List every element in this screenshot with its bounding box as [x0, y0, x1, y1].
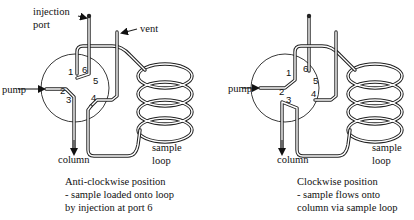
port-6: 6 — [82, 64, 87, 75]
port-6: 6 — [303, 63, 308, 74]
caption-line-3: column via sample loop — [297, 202, 398, 213]
caption-line-2: - sample loaded onto loop — [65, 189, 174, 200]
injection-port-label-2: port — [33, 19, 50, 30]
port-3: 3 — [66, 94, 71, 105]
pump-label: pump — [228, 83, 252, 94]
injection-port-tip — [87, 14, 91, 18]
loop-tube-bottom — [282, 102, 350, 156]
column-label: column — [277, 154, 309, 165]
hplc-valve-diagram: 1 2 3 4 5 6 injection port vent pump col… — [0, 0, 414, 220]
caption-line-2: - sample flows onto — [297, 189, 380, 200]
sample-loop-coil — [348, 64, 402, 142]
pump-label: pump — [2, 84, 26, 95]
sample-loop-label-2: loop — [372, 155, 391, 166]
vent-pointer-icon — [122, 29, 137, 33]
injection-pointer-icon — [78, 16, 86, 18]
vent-tube — [315, 32, 336, 100]
port-4: 4 — [91, 92, 96, 103]
sample-loop-coil — [138, 64, 192, 142]
caption-line-1: Anti-clockwise position — [65, 176, 166, 187]
port-3: 3 — [286, 94, 291, 105]
port-1: 1 — [286, 67, 291, 78]
port-4: 4 — [311, 88, 316, 99]
port-5: 5 — [313, 75, 318, 86]
vent-label: vent — [140, 23, 158, 34]
injection-port-tip — [307, 14, 311, 18]
port-1: 1 — [68, 66, 73, 77]
anticlockwise-diagram: 1 2 3 4 5 6 injection port vent pump col… — [2, 6, 192, 213]
clockwise-diagram: 1 2 3 4 5 6 pump column sample loop Cloc… — [228, 14, 402, 213]
caption-line-1: Clockwise position — [297, 176, 379, 187]
column-label: column — [58, 154, 90, 165]
port-2: 2 — [279, 86, 284, 97]
port-2: 2 — [60, 85, 65, 96]
sample-loop-label-2: loop — [152, 155, 171, 166]
port-5: 5 — [93, 75, 98, 86]
caption-line-3: by injection at port 6 — [65, 202, 152, 213]
sample-loop-label: sample — [372, 142, 402, 153]
sample-loop-label: sample — [152, 142, 182, 153]
loop-tube-bottom — [88, 106, 140, 156]
injection-port-label: injection — [33, 6, 70, 17]
